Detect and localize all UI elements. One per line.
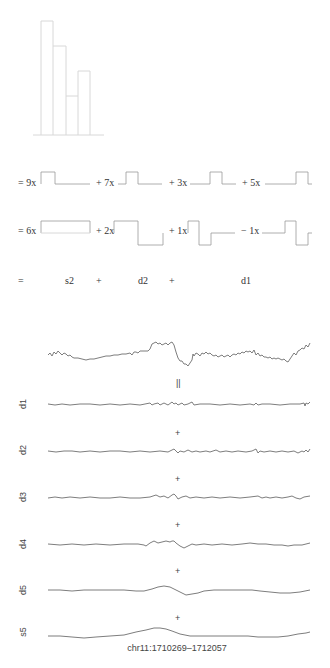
box-basis-4	[265, 172, 312, 184]
equation-row-3: = s2 + d2 + d1	[18, 275, 251, 286]
term-label: + 2x	[96, 225, 114, 236]
d2-label: d2	[138, 275, 148, 286]
d2-trace	[48, 449, 310, 453]
haar-wide-basis	[114, 221, 163, 245]
signal-trace	[48, 342, 310, 366]
equation-row-2: = 6x + 2x + 1x − 1x	[18, 221, 312, 245]
panel-label: d5	[18, 585, 28, 595]
d4-trace	[48, 541, 310, 548]
plus-symbol: +	[175, 474, 180, 484]
x-axis-label: chr11:1710269–1712057	[127, 643, 226, 653]
haar-right-basis	[262, 221, 312, 245]
panel-d4: d4	[18, 539, 310, 549]
equals-sign: =	[18, 275, 24, 286]
panel-label: d3	[18, 492, 28, 502]
term-label: − 1x	[241, 225, 259, 236]
histogram	[33, 21, 104, 135]
term-label: + 1x	[169, 225, 187, 236]
term-label: = 6x	[18, 225, 36, 236]
panel-s5: s5	[18, 627, 310, 638]
d1-trace	[48, 402, 310, 406]
wavelet-figure: = 9x + 7x + 3x + 5x = 6x + 2x + 1x − 1x …	[0, 0, 330, 668]
d3-trace	[48, 494, 310, 499]
plus-sign: +	[169, 275, 175, 286]
panel-d2: d2	[18, 445, 310, 455]
panel-label: d1	[18, 399, 28, 409]
panel-d3: d3	[18, 492, 310, 502]
term-label: = 9x	[18, 177, 36, 188]
term-label: + 7x	[96, 177, 114, 188]
d1-label: d1	[241, 275, 251, 286]
plus-symbol: +	[175, 613, 180, 623]
plus-sign: +	[96, 275, 102, 286]
haar-left-basis	[188, 221, 235, 245]
plus-symbol: +	[175, 428, 180, 438]
panel-label: d4	[18, 539, 28, 549]
box-basis-2	[118, 172, 162, 184]
scaling-basis	[41, 221, 90, 233]
s2-label: s2	[65, 275, 74, 286]
panel-d1: d1	[18, 399, 310, 409]
term-label: + 5x	[242, 177, 260, 188]
box-basis-1	[41, 172, 90, 184]
s5-trace	[48, 628, 310, 638]
d5-trace	[48, 586, 310, 595]
panel-label: s5	[18, 627, 28, 637]
equation-row-1: = 9x + 7x + 3x + 5x	[18, 172, 312, 188]
box-basis-3	[190, 172, 236, 184]
panel-d5: d5	[18, 585, 310, 595]
equivalence-symbol: ||	[176, 378, 181, 388]
plus-symbol: +	[175, 520, 180, 530]
panel-label: d2	[18, 445, 28, 455]
original-signal	[48, 342, 310, 366]
term-label: + 3x	[169, 177, 187, 188]
plus-symbol: +	[175, 566, 180, 576]
